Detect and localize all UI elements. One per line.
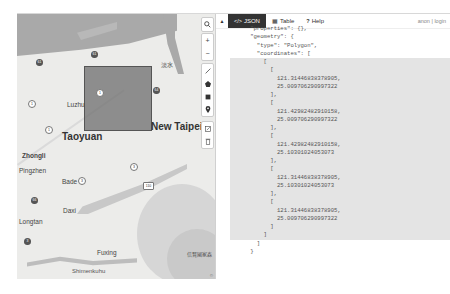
- edit-icon[interactable]: [202, 122, 213, 135]
- code-text: 25.10301024053073: [230, 182, 334, 189]
- road-marker: 1: [45, 126, 53, 134]
- edit-toolbar: [201, 121, 214, 149]
- search-control[interactable]: [201, 17, 214, 32]
- code-text: [: [230, 99, 274, 106]
- code-text: ],: [230, 124, 277, 131]
- zoom-control: + −: [201, 33, 214, 61]
- code-line[interactable]: 16 121.42982482910158,: [230, 108, 450, 116]
- code-line[interactable]: 33 }: [230, 248, 450, 256]
- code-icon: </>: [234, 18, 242, 24]
- code-text: 25.10301024053073: [230, 149, 334, 156]
- code-line[interactable]: 15 [: [230, 99, 450, 107]
- code-text: 121.31446838378905,: [230, 75, 341, 82]
- code-line[interactable]: 12 121.31446838378905,: [230, 75, 450, 83]
- code-text: 121.31446838378905,: [230, 207, 341, 214]
- draw-rectangle-icon[interactable]: [202, 90, 213, 103]
- code-text: 25.009706290997322: [230, 215, 337, 222]
- draw-line-icon[interactable]: [202, 64, 213, 77]
- table-icon: ▦: [272, 18, 278, 24]
- code-text: ],: [230, 190, 277, 197]
- road-marker: 1: [96, 89, 104, 97]
- road-marker: 1: [28, 100, 36, 108]
- map-label-bade: Bade: [62, 178, 77, 185]
- code-text: ]: [230, 231, 267, 238]
- code-line[interactable]: 27 [: [230, 198, 450, 206]
- code-text: 25.009706290997322: [230, 116, 337, 123]
- code-line[interactable]: 30 ]: [230, 223, 450, 231]
- highway-shield: 3: [24, 238, 31, 245]
- map-label-longtan: Longtan: [19, 218, 43, 225]
- map-attribution[interactable]: ©: [210, 273, 213, 278]
- map-panel[interactable]: 61 61 64 66 3 1 1 1 3 3 110 淡水 Luzhu Tao…: [17, 14, 216, 279]
- tab-table-label: Table: [280, 18, 294, 24]
- code-text: [: [230, 132, 274, 139]
- map-label-shimenkuhu: Shimenkuhu: [72, 268, 105, 274]
- road-marker: 3: [130, 163, 138, 171]
- code-line[interactable]: 11 [: [230, 66, 450, 74]
- code-line[interactable]: 13 25.009706290997322: [230, 83, 450, 91]
- json-code-editor[interactable]: 6 "properties": {},7 "geometry": {8 "typ…: [230, 25, 450, 279]
- code-line[interactable]: 24 121.31446838378905,: [230, 174, 450, 182]
- code-line[interactable]: 26 ],: [230, 190, 450, 198]
- draw-polygon-icon[interactable]: [202, 77, 213, 90]
- code-text: 121.42982482910158,: [230, 108, 341, 115]
- code-line[interactable]: 14 ],: [230, 91, 450, 99]
- code-line[interactable]: 10 [: [230, 58, 450, 66]
- code-line[interactable]: 17 25.009706290997322: [230, 116, 450, 124]
- code-text: ]: [230, 223, 274, 230]
- code-line[interactable]: 22 ],: [230, 157, 450, 165]
- map-label-daxi: Daxi: [63, 207, 76, 214]
- code-text: ],: [230, 91, 277, 98]
- code-line[interactable]: 25 25.10301024053073: [230, 182, 450, 190]
- code-line[interactable]: 28 121.31446838378905,: [230, 207, 450, 215]
- code-text: [: [230, 198, 274, 205]
- collapse-toggle[interactable]: ▲: [216, 14, 228, 28]
- map-label-pingzhen: Pingzhen: [19, 167, 46, 174]
- map-label-zhongli: Zhongli: [22, 152, 45, 159]
- map-label-forest: 信賢國家森: [187, 250, 212, 257]
- zoom-in-button[interactable]: +: [202, 34, 213, 47]
- code-line[interactable]: 31 ]: [230, 231, 450, 239]
- road-marker: 110: [143, 182, 154, 190]
- code-line[interactable]: 9 "coordinates": [: [230, 50, 450, 58]
- code-line[interactable]: 23 [: [230, 165, 450, 173]
- code-text: [: [230, 66, 274, 73]
- river-south: [27, 254, 137, 268]
- code-text: [: [230, 58, 267, 65]
- drawn-polygon[interactable]: [84, 66, 152, 131]
- search-icon[interactable]: [202, 18, 213, 31]
- draw-marker-icon[interactable]: [202, 103, 213, 116]
- map-label-tamsui: 淡水: [161, 60, 173, 69]
- code-line[interactable]: 19 [: [230, 132, 450, 140]
- code-line[interactable]: 18 ],: [230, 124, 450, 132]
- code-line[interactable]: 32 ]: [230, 240, 450, 248]
- code-line[interactable]: 6 "properties": {},: [230, 25, 450, 33]
- help-icon: ?: [306, 18, 309, 24]
- editor-panel: ▲ </> JSON ▦ Table ? Help anon | login 6…: [216, 14, 450, 279]
- code-text: [: [230, 165, 274, 172]
- code-text: "coordinates": [: [230, 50, 311, 57]
- code-text: "properties": {},: [230, 25, 307, 32]
- road-marker: 3: [78, 177, 86, 185]
- code-line[interactable]: 20 121.42982482910158,: [230, 141, 450, 149]
- highway-shield: 61: [91, 51, 98, 58]
- user-links[interactable]: anon | login: [418, 18, 446, 24]
- code-text: ],: [230, 157, 277, 164]
- code-line[interactable]: 21 25.10301024053073: [230, 149, 450, 157]
- code-line[interactable]: 8 "type": "Polygon",: [230, 42, 450, 50]
- code-text: 121.31446838378905,: [230, 174, 341, 181]
- map-label-fuxing: Fuxing: [97, 249, 117, 256]
- map-label-taoyuan: Taoyuan: [62, 131, 102, 142]
- trash-icon[interactable]: [202, 135, 213, 148]
- code-text: 25.009706290997322: [230, 83, 337, 90]
- code-text: }: [230, 248, 254, 255]
- highway-shield: 66: [31, 197, 38, 204]
- code-text: ]: [230, 240, 260, 247]
- code-line[interactable]: 29 25.009706290997322: [230, 215, 450, 223]
- code-line[interactable]: 7 "geometry": {: [230, 33, 450, 41]
- highway-shield: 61: [36, 59, 43, 66]
- app-window: 61 61 64 66 3 1 1 1 3 3 110 淡水 Luzhu Tao…: [17, 13, 450, 280]
- map-label-luzhu: Luzhu: [67, 101, 85, 108]
- zoom-out-button[interactable]: −: [202, 47, 213, 60]
- code-text: 121.42982482910158,: [230, 141, 341, 148]
